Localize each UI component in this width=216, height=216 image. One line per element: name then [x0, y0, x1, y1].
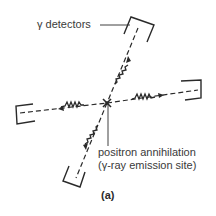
detector-bottom-left [63, 166, 85, 187]
detector-top-right [124, 17, 154, 42]
arrowhead-icon [158, 93, 164, 98]
gamma-ray-up-right [115, 56, 131, 84]
detectors-label: γ detectors [37, 18, 91, 31]
diagram-graphic [0, 0, 216, 216]
pet-diagram: γ detectors positron annihilation (γ-ray… [0, 0, 216, 216]
arrowhead-icon [83, 143, 88, 150]
annihilation-label-line1: positron annihilation [98, 146, 196, 159]
gamma-ray-right [132, 93, 164, 99]
arrowhead-icon [126, 56, 131, 63]
figure-caption: (a) [101, 189, 114, 202]
detector-left [16, 104, 35, 124]
annihilation-label-line2: (γ-ray emission site) [98, 159, 196, 172]
